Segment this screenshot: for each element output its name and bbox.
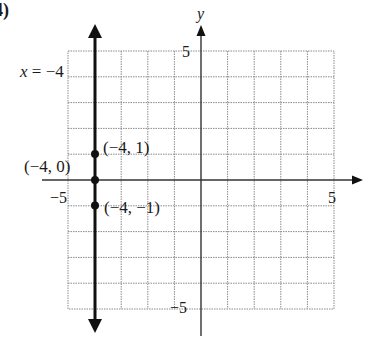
y-tick-5: 5 bbox=[182, 43, 190, 60]
y-tick-neg5: −5 bbox=[170, 299, 187, 316]
point-neg4-0 bbox=[91, 176, 99, 184]
point-label-neg4-neg1: (−4, −1) bbox=[104, 198, 160, 217]
line-arrow-up-icon bbox=[88, 24, 102, 38]
point-neg4-neg1 bbox=[91, 202, 99, 210]
y-axis-arrow-icon bbox=[197, 25, 206, 36]
x-axis bbox=[42, 176, 363, 185]
coordinate-graph: y 5 −5 5 −5 x = −4 (−4, 1) (−4, 0) (−4, … bbox=[0, 0, 370, 339]
line-arrow-down-icon bbox=[88, 319, 102, 333]
point-neg4-1 bbox=[91, 150, 99, 158]
line-equation-label: x = −4 bbox=[19, 62, 64, 81]
x-tick-5: 5 bbox=[328, 189, 336, 206]
x-tick-neg5: −5 bbox=[50, 189, 67, 206]
x-axis-arrow-icon bbox=[352, 176, 363, 185]
point-label-neg4-1: (−4, 1) bbox=[103, 138, 149, 157]
point-label-neg4-0: (−4, 0) bbox=[24, 157, 70, 176]
y-axis-label: y bbox=[195, 5, 205, 23]
problem-number-label: 4) bbox=[0, 0, 9, 21]
